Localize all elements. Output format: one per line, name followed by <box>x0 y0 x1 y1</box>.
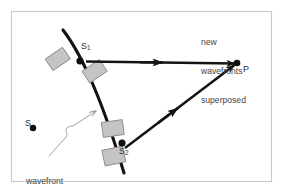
label-slit-s2: S2 <box>119 146 129 156</box>
slit-node-s1 <box>76 57 83 64</box>
huygens-wavefront-figure: new wavefronts superposed P S wavefront … <box>0 0 282 194</box>
label-new-wavefronts-line2: wavefronts <box>201 67 246 77</box>
label-slit-s2-subscript: 2 <box>125 149 129 156</box>
label-point-p: P <box>243 64 249 74</box>
label-slit-s1: S1 <box>81 41 91 51</box>
label-wavefront-from-s: wavefront from S <box>26 158 63 194</box>
label-new-wavefronts-superposed: new wavefronts superposed <box>201 19 246 125</box>
label-new-wavefronts-line1: new <box>201 38 246 48</box>
label-wavefront-line1: wavefront <box>26 177 63 187</box>
label-slit-s1-subscript: 1 <box>87 44 91 51</box>
label-source-s: S <box>25 118 31 128</box>
label-new-wavefronts-line3: superposed <box>201 96 246 106</box>
slit-plate-s2-upper <box>101 120 124 138</box>
